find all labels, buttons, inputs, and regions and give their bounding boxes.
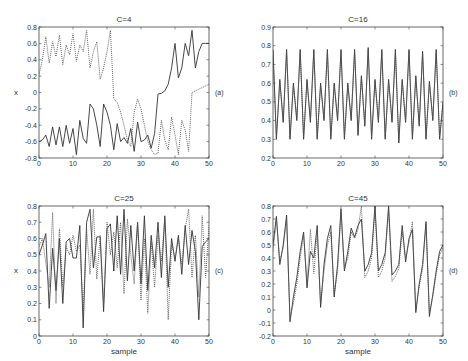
x-axis-label: sample: [345, 347, 371, 356]
panel-label: (b): [449, 89, 458, 97]
x-tick-label: 20: [103, 160, 111, 167]
chart-panel-a: 01020304050-0.8-0.6-0.4-0.200.20.40.60.8…: [14, 15, 224, 167]
x-tick-label: 20: [337, 160, 345, 167]
y-tick-label: 0: [33, 333, 37, 340]
y-tick-label: 0.5: [27, 251, 37, 258]
chart-panel-d: 01020304050-0.2-0.100.10.20.30.40.50.60.…: [259, 194, 458, 356]
x-tick-label: 50: [439, 160, 447, 167]
y-tick-label: 0.8: [261, 42, 271, 49]
x-tick-label: 20: [103, 338, 111, 345]
y-tick-label: 0.2: [261, 281, 271, 288]
x-tick-label: 10: [303, 160, 311, 167]
chart-title: C=25: [114, 194, 134, 203]
y-tick-label: -0.6: [25, 138, 37, 145]
y-tick-label: 0.5: [261, 98, 271, 105]
figure-canvas: 01020304050-0.8-0.6-0.4-0.200.20.40.60.8…: [0, 0, 468, 361]
y-tick-label: 0.1: [261, 294, 271, 301]
x-tick-label: 0: [37, 160, 41, 167]
y-tick-label: -0.1: [259, 320, 271, 327]
panel-label: (d): [449, 267, 458, 275]
y-tick-label: 0.7: [261, 61, 271, 68]
y-tick-label: 0.3: [261, 268, 271, 275]
y-tick-label: -0.4: [25, 122, 37, 129]
y-tick-label: 0.6: [261, 80, 271, 87]
y-tick-label: 0.6: [27, 40, 37, 47]
y-tick-label: 0.7: [261, 216, 271, 223]
panel-label: (a): [215, 89, 224, 97]
y-tick-label: 0.9: [261, 24, 271, 31]
x-tick-label: 40: [171, 160, 179, 167]
y-tick-label: -0.2: [25, 105, 37, 112]
y-tick-label: 0.2: [261, 155, 271, 162]
y-tick-label: 0: [267, 307, 271, 314]
y-tick-label: 0.6: [27, 235, 37, 242]
y-tick-label: 0.2: [27, 300, 37, 307]
x-tick-label: 40: [405, 160, 413, 167]
chart-panel-b: 010203040500.20.30.40.50.60.70.80.9C=16(…: [261, 15, 457, 167]
x-tick-label: 10: [303, 338, 311, 345]
x-tick-label: 50: [439, 338, 447, 345]
y-tick-label: 0.4: [261, 117, 271, 124]
y-tick-label: -0.2: [259, 333, 271, 340]
y-tick-label: 0.4: [27, 56, 37, 63]
y-tick-label: 0.3: [261, 136, 271, 143]
chart-title: C=45: [348, 194, 368, 203]
y-tick-label: 0.8: [27, 203, 37, 210]
y-tick-label: 0.3: [27, 284, 37, 291]
y-tick-label: 0.8: [27, 24, 37, 31]
y-tick-label: 0.2: [27, 73, 37, 80]
x-tick-label: 0: [271, 338, 275, 345]
x-axis-label: sample: [111, 347, 137, 356]
y-tick-label: 0.8: [261, 203, 271, 210]
y-tick-label: 0.1: [27, 316, 37, 323]
y-tick-label: 0.7: [27, 219, 37, 226]
x-tick-label: 40: [405, 338, 413, 345]
x-tick-label: 0: [37, 338, 41, 345]
y-tick-label: 0.4: [27, 268, 37, 275]
x-tick-label: 30: [371, 338, 379, 345]
y-tick-label: 0.6: [261, 229, 271, 236]
y-axis-label: x: [14, 266, 18, 275]
y-tick-label: 0.4: [261, 255, 271, 262]
x-tick-label: 0: [271, 160, 275, 167]
panel-label: (c): [215, 267, 223, 275]
y-axis-label: x: [14, 88, 18, 97]
x-tick-label: 30: [137, 338, 145, 345]
x-tick-label: 50: [205, 338, 213, 345]
x-tick-label: 50: [205, 160, 213, 167]
x-tick-label: 30: [137, 160, 145, 167]
x-tick-label: 30: [371, 160, 379, 167]
x-tick-label: 10: [69, 160, 77, 167]
chart-panel-c: 0102030405000.10.20.30.40.50.60.70.8C=25…: [14, 194, 223, 356]
x-tick-label: 40: [171, 338, 179, 345]
y-tick-label: -0.8: [25, 155, 37, 162]
y-tick-label: 0.5: [261, 242, 271, 249]
y-tick-label: 0: [33, 89, 37, 96]
chart-title: C=4: [117, 15, 132, 24]
x-tick-label: 10: [69, 338, 77, 345]
chart-title: C=16: [348, 15, 368, 24]
x-tick-label: 20: [337, 338, 345, 345]
